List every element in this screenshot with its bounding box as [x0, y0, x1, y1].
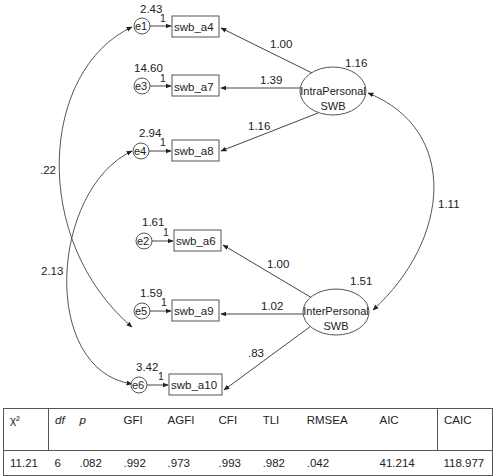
header-gfi: GFI: [118, 409, 162, 451]
indicator-swb_a9: 1.59 e5 1 swb_a9: [134, 287, 219, 321]
svg-text:1.61: 1.61: [142, 216, 164, 228]
svg-text:e6: e6: [132, 379, 144, 391]
covariance-latents: [368, 93, 434, 310]
latent-variance: 1.51: [350, 275, 372, 287]
svg-text:1: 1: [160, 12, 166, 24]
svg-text:e2: e2: [137, 235, 149, 247]
loading-intra-a8: [221, 113, 318, 151]
latent-variance: 1.16: [345, 57, 367, 69]
header-chi-square: χ²: [4, 409, 49, 451]
svg-text:14.60: 14.60: [134, 62, 163, 74]
header-rmsea: RMSEA: [301, 409, 374, 451]
latent-intrapersonal: 1.16 IntraPersonal SWB: [300, 57, 367, 115]
loading-label-a10: .83: [248, 347, 264, 359]
loading-inter-a6: [223, 245, 312, 298]
value-aic: 41.214: [374, 451, 438, 476]
value-rmsea: .042: [301, 451, 374, 476]
svg-text:swb_a4: swb_a4: [174, 21, 214, 33]
covariance-e4-e6: [67, 151, 132, 384]
value-df: 6: [49, 451, 74, 476]
indicator-swb_a6: 1.61 e2 1 swb_a6: [136, 216, 221, 251]
loading-label-a4: 1.00: [270, 38, 292, 50]
svg-text:e3: e3: [135, 80, 147, 92]
value-chi-square: 11.21: [4, 451, 49, 476]
value-agfi: .973: [162, 451, 213, 476]
latent-interpersonal: 1.51 InterPersonal SWB: [303, 275, 372, 335]
svg-text:SWB: SWB: [320, 100, 345, 112]
svg-text:1: 1: [163, 226, 169, 238]
loading-label-a7: 1.39: [260, 74, 282, 86]
indicator-swb_a8: 2.94 e4 1 swb_a8: [133, 127, 219, 161]
header-agfi: AGFI: [162, 409, 213, 451]
svg-text:e1: e1: [135, 20, 147, 32]
value-gfi: .992: [118, 451, 162, 476]
svg-text:SWB: SWB: [323, 320, 348, 332]
loading-label-a6: 1.00: [267, 258, 289, 270]
svg-text:1: 1: [158, 370, 164, 382]
value-cfi: .993: [213, 451, 257, 476]
svg-text:swb_a8: swb_a8: [174, 145, 214, 157]
svg-text:InterPersonal: InterPersonal: [303, 305, 368, 317]
svg-text:swb_a7: swb_a7: [174, 81, 214, 93]
svg-text:1: 1: [160, 72, 166, 84]
value-caic: 118.977: [438, 451, 493, 476]
indicator-swb_a4: 2.43 e1 1 swb_a4: [134, 3, 219, 37]
svg-text:swb_a6: swb_a6: [176, 235, 216, 247]
indicator-swb_a7: 14.60 e3 1 swb_a7: [134, 62, 219, 96]
svg-text:e4: e4: [134, 145, 146, 157]
value-p: .082: [73, 451, 117, 476]
loading-intra-a4: [221, 28, 312, 73]
svg-text:1.59: 1.59: [140, 287, 162, 299]
svg-text:1: 1: [160, 136, 166, 148]
loading-label-a8: 1.16: [248, 120, 270, 132]
svg-text:e5: e5: [135, 305, 147, 317]
svg-text:swb_a9: swb_a9: [174, 305, 214, 317]
loading-inter-a10: [224, 326, 311, 390]
fit-table-header-row: χ² df p GFI AGFI CFI TLI RMSEA AIC CAIC: [4, 409, 493, 451]
covariance-e1-e5: [59, 27, 132, 327]
header-cfi: CFI: [213, 409, 257, 451]
loading-label-a9: 1.02: [261, 300, 283, 312]
covariance-label-e1-e5: .22: [40, 164, 56, 176]
header-p: p: [73, 409, 117, 451]
svg-text:3.42: 3.42: [136, 361, 158, 373]
fit-table-values-row: 11.21 6 .082 .992 .973 .993 .982 .042 41…: [4, 451, 493, 476]
header-tli: TLI: [257, 409, 301, 451]
sem-path-diagram: .22 2.13 1.11 2.43 e1 1 swb_a4 14.60 e3 …: [0, 0, 496, 405]
svg-text:swb_a10: swb_a10: [171, 379, 217, 391]
value-tli: .982: [257, 451, 301, 476]
header-df: df: [49, 409, 74, 451]
header-caic: CAIC: [438, 409, 493, 451]
model-fit-table: χ² df p GFI AGFI CFI TLI RMSEA AIC CAIC …: [3, 408, 493, 476]
indicator-swb_a10: 3.42 e6 1 swb_a10: [131, 361, 222, 395]
svg-text:2.94: 2.94: [139, 127, 162, 139]
svg-text:1: 1: [161, 296, 167, 308]
header-aic: AIC: [374, 409, 438, 451]
svg-text:IntraPersonal: IntraPersonal: [300, 85, 365, 97]
covariance-label-e4-e6: 2.13: [41, 265, 63, 277]
covariance-label-latents: 1.11: [438, 198, 460, 210]
